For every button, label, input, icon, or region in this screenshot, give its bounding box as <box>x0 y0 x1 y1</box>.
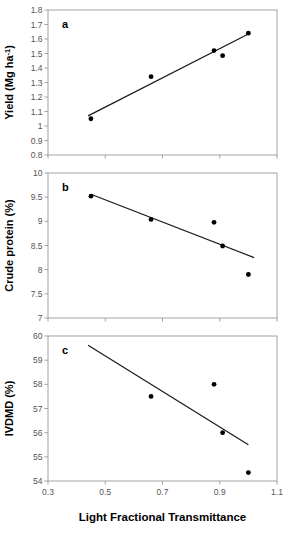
data-point-b-0[interactable] <box>89 194 94 199</box>
y-tick-label-a-5: 1.3 <box>31 78 43 88</box>
y-tick-label-c-1: 55 <box>33 452 43 462</box>
data-point-a-0[interactable] <box>89 116 94 121</box>
data-point-b-2[interactable] <box>212 220 217 225</box>
panel-b: 77.588.599.510bCrude protein (%) <box>3 168 277 323</box>
multi-panel-scatter-figure: 0.80.911.11.21.31.41.51.61.71.8aYield (M… <box>0 0 285 536</box>
data-point-c-3[interactable] <box>246 470 251 475</box>
data-point-c-0[interactable] <box>149 394 154 399</box>
panel-c: 545556575859600.30.50.70.91.1cIVDMD (%) <box>3 331 283 497</box>
y-tick-label-c-3: 57 <box>33 404 43 414</box>
y-axis-title-b: Crude protein (%) <box>3 199 15 292</box>
plot-frame-c <box>48 336 277 481</box>
data-point-a-3[interactable] <box>220 53 225 58</box>
data-point-b-4[interactable] <box>246 272 251 277</box>
y-tick-label-c-0: 54 <box>33 476 43 486</box>
x-tick-label-0: 0.3 <box>42 487 54 497</box>
data-point-b-3[interactable] <box>220 244 225 249</box>
y-tick-label-a-1: 0.9 <box>31 136 43 146</box>
x-tick-label-3: 0.9 <box>214 487 226 497</box>
regression-line-a <box>88 34 248 116</box>
y-tick-label-b-6: 10 <box>33 168 43 178</box>
y-tick-label-c-4: 58 <box>33 379 43 389</box>
y-tick-label-c-5: 59 <box>33 355 43 365</box>
data-point-a-1[interactable] <box>149 74 154 79</box>
x-tick-label-4: 1.1 <box>271 487 283 497</box>
y-axis-title-c: IVDMD (%) <box>3 380 15 436</box>
y-tick-label-a-3: 1.1 <box>31 107 43 117</box>
x-tick-label-1: 0.5 <box>99 487 111 497</box>
y-tick-label-a-2: 1 <box>38 121 43 131</box>
y-tick-label-b-3: 8.5 <box>31 241 43 251</box>
y-tick-label-c-6: 60 <box>33 331 43 341</box>
figure-container: 0.80.911.11.21.31.41.51.61.71.8aYield (M… <box>0 0 285 536</box>
regression-line-b <box>91 194 254 257</box>
data-point-c-1[interactable] <box>212 382 217 387</box>
panel-a: 0.80.911.11.21.31.41.51.61.71.8aYield (M… <box>3 5 277 160</box>
data-point-a-2[interactable] <box>212 48 217 53</box>
y-tick-label-b-0: 7 <box>38 313 43 323</box>
panel-label-c: c <box>62 344 68 356</box>
y-tick-label-b-1: 7.5 <box>31 289 43 299</box>
x-axis-title: Light Fractional Transmittance <box>79 511 246 523</box>
y-axis-title-superscript-a: -1 <box>3 49 12 56</box>
y-tick-label-b-2: 8 <box>38 265 43 275</box>
y-axis-title-main-a: Yield (Mg ha <box>3 55 15 120</box>
plot-frame-b <box>48 173 277 318</box>
y-axis-title-a: Yield (Mg ha-1) <box>3 45 15 120</box>
data-point-b-1[interactable] <box>149 217 154 222</box>
data-point-c-2[interactable] <box>220 430 225 435</box>
y-tick-label-a-9: 1.7 <box>31 20 43 30</box>
y-tick-label-c-2: 56 <box>33 428 43 438</box>
panel-label-a: a <box>62 18 69 30</box>
y-tick-label-a-7: 1.5 <box>31 49 43 59</box>
y-axis-title-tail-a: ) <box>3 45 15 49</box>
regression-line-c <box>88 345 248 445</box>
x-tick-label-2: 0.7 <box>157 487 169 497</box>
y-tick-label-a-10: 1.8 <box>31 5 43 15</box>
data-point-a-4[interactable] <box>246 31 251 36</box>
y-tick-label-a-6: 1.4 <box>31 63 43 73</box>
y-tick-label-a-8: 1.6 <box>31 34 43 44</box>
y-tick-label-a-4: 1.2 <box>31 92 43 102</box>
y-tick-label-a-0: 0.8 <box>31 150 43 160</box>
plot-frame-a <box>48 10 277 155</box>
y-tick-label-b-4: 9 <box>38 216 43 226</box>
y-tick-label-b-5: 9.5 <box>31 192 43 202</box>
panel-label-b: b <box>62 181 69 193</box>
